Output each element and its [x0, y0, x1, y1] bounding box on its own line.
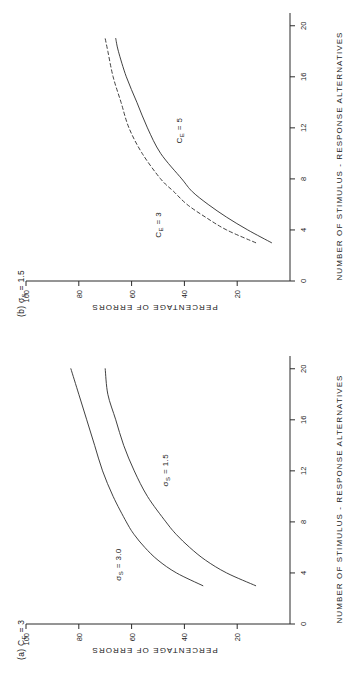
- curve-a0-value: = 3.0: [114, 548, 123, 568]
- x-tick-label: 12: [299, 124, 308, 132]
- panel-b-plot: 04812162020406080100: [0, 0, 348, 343]
- curve-b1-subscript: E: [179, 133, 185, 137]
- curve-a1-symbol: σ: [161, 481, 170, 486]
- curve-b0-subscript: E: [158, 227, 164, 231]
- curve-a0-subscript: S: [118, 571, 124, 575]
- y-tick-label: 100: [22, 633, 31, 646]
- x-tick-label: 0: [299, 622, 308, 626]
- panel-a-x-axis-title: NUMBER OF STIMULUS - RESPONSE ALTERNATIV…: [335, 374, 344, 624]
- curve-b1-symbol: C: [175, 137, 184, 143]
- panel-a: (a) CE = 3 04812162020406080100 σS = 3.0…: [0, 343, 348, 686]
- figure-canvas: (a) CE = 3 04812162020406080100 σS = 3.0…: [0, 0, 348, 686]
- panel-b-y-axis-title: PERCENTAGE OF ERRORS: [55, 303, 255, 312]
- x-tick-label: 8: [299, 177, 308, 181]
- x-tick-label: 4: [299, 228, 308, 232]
- curve-b0-symbol: C: [154, 231, 163, 237]
- x-tick-label: 20: [299, 365, 308, 373]
- curve-label-sigma-s-1-5: σS = 1.5: [161, 454, 171, 486]
- curve-label-sigma-s-3-0: σS = 3.0: [114, 548, 124, 580]
- x-tick-label: 20: [299, 22, 308, 30]
- y-tick-label: 20: [233, 290, 242, 298]
- curve-a1-subscript: S: [165, 477, 171, 481]
- y-tick-label: 40: [180, 633, 189, 641]
- curve-a0-symbol: σ: [114, 575, 123, 580]
- x-tick-label: 16: [299, 73, 308, 81]
- curve-a1-value: = 1.5: [161, 454, 170, 474]
- data-curve: [116, 39, 272, 243]
- y-tick-label: 80: [75, 290, 84, 298]
- two-panel-figure: (a) CE = 3 04812162020406080100 σS = 3.0…: [0, 0, 348, 686]
- y-tick-label: 40: [180, 290, 189, 298]
- x-tick-label: 4: [299, 571, 308, 575]
- data-curve: [105, 369, 255, 586]
- x-tick-label: 8: [299, 520, 308, 524]
- panel-b-x-axis-title: NUMBER OF STIMULUS - RESPONSE ALTERNATIV…: [335, 31, 344, 281]
- y-tick-label: 60: [128, 290, 137, 298]
- curve-b0-value: = 3: [154, 212, 163, 225]
- panel-a-plot: 04812162020406080100: [0, 343, 348, 686]
- curve-b1-value: = 5: [175, 118, 184, 131]
- y-tick-label: 20: [233, 633, 242, 641]
- y-tick-label: 60: [128, 633, 137, 641]
- y-tick-label: 80: [75, 633, 84, 641]
- panel-a-y-axis-title: PERCENTAGE OF ERRORS: [55, 646, 255, 655]
- curve-label-c-e-5: CE = 5: [175, 118, 185, 144]
- x-tick-label: 12: [299, 467, 308, 475]
- x-tick-label: 16: [299, 416, 308, 424]
- curve-label-c-e-3: CE = 3: [154, 212, 164, 238]
- y-tick-label: 100: [22, 290, 31, 303]
- panel-b: (b) σS = 1.5 04812162020406080100 CE = 3…: [0, 0, 348, 343]
- x-tick-label: 0: [299, 279, 308, 283]
